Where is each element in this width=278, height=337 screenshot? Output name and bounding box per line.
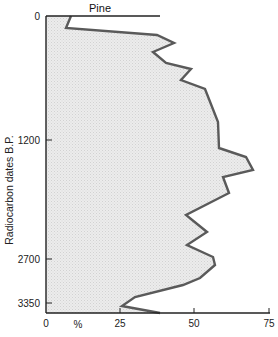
y-axis-label: Radiocarbon dates B.P. — [3, 135, 15, 245]
y-tick-label-1200: 1200 — [18, 135, 41, 146]
x-unit-label: % — [74, 319, 83, 330]
x-tick-label-50: 50 — [188, 318, 200, 329]
pine-area-fill — [46, 16, 253, 313]
y-tick-label-0: 0 — [34, 11, 40, 22]
y-tick-label-3350: 3350 — [18, 298, 41, 309]
x-tick-label-0: 0 — [43, 318, 49, 329]
x-tick-label-25: 25 — [114, 318, 126, 329]
chart-title: Pine — [89, 2, 111, 14]
y-tick-label-2700: 2700 — [18, 254, 41, 265]
pine-pollen-chart: Pine 0 1200 2700 3350 0 % 25 50 75 Radio… — [0, 0, 278, 337]
x-tick-label-75: 75 — [263, 318, 275, 329]
